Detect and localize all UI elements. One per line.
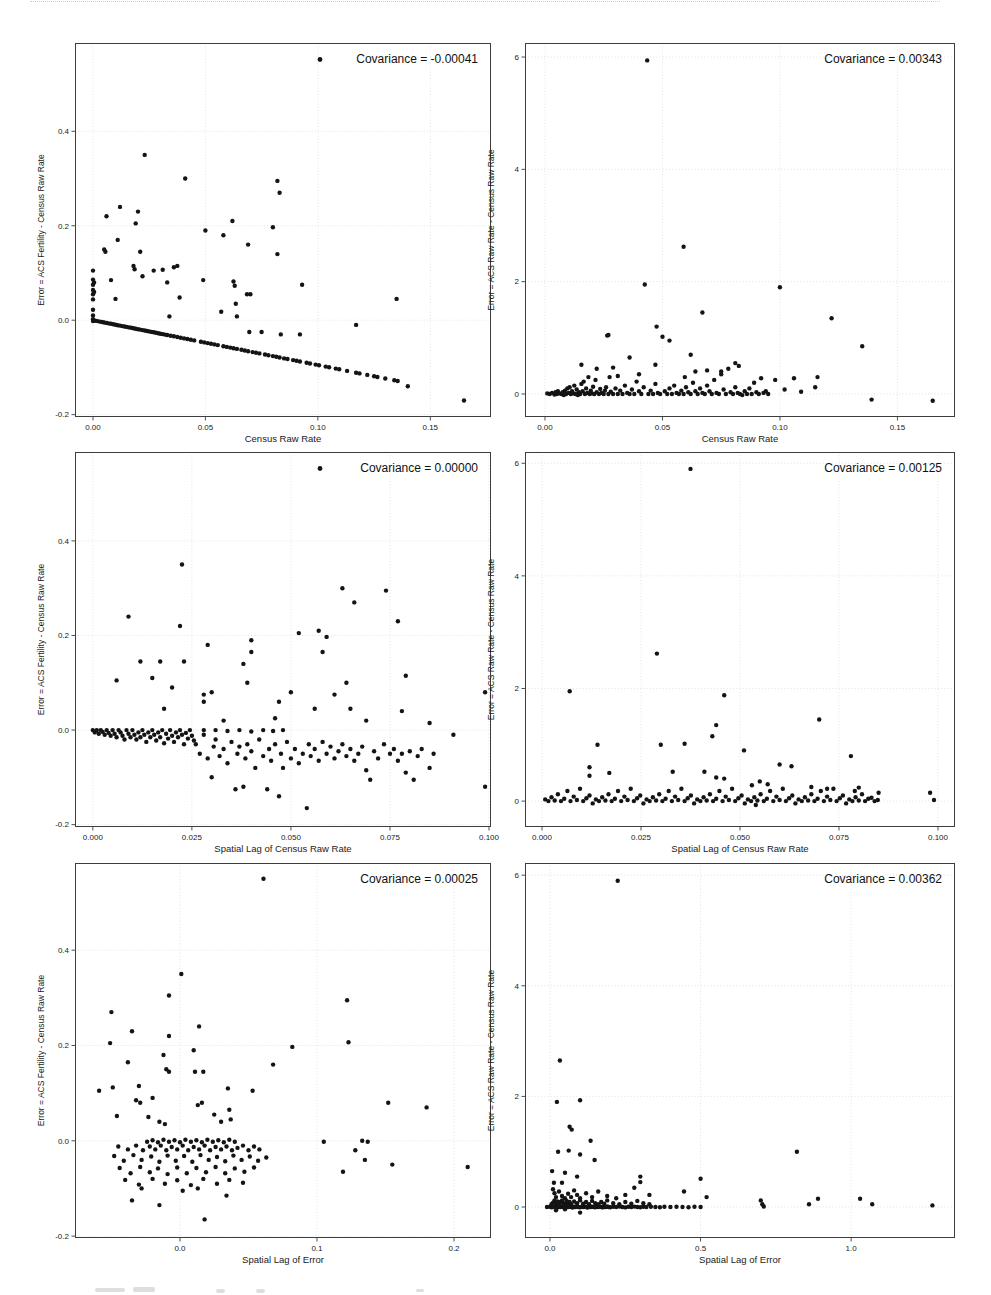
x-axis-ticks: 0.00.51.0 — [544, 1238, 857, 1253]
caption-remnant — [133, 1287, 155, 1292]
gridlines — [525, 863, 955, 1238]
x-tick-label: 0.10 — [772, 423, 788, 432]
y-tick-label: 4 — [515, 982, 520, 991]
y-tick-label: 0.4 — [58, 127, 70, 136]
y-axis-title: Error = ACS Raw Rate - Census Raw Rate — [486, 970, 496, 1132]
y-axis-title: Error = ACS Raw Rate - Census Raw Rate — [486, 149, 496, 311]
y-tick-label: 6 — [515, 459, 520, 468]
caption-remnant — [216, 1289, 225, 1293]
gridlines — [525, 452, 955, 827]
x-tick-label: 0.075 — [380, 833, 401, 842]
y-tick-label: 0.2 — [58, 222, 70, 231]
scatter-panel-6: 0.00.51.00246Spatial Lag of ErrorError =… — [525, 863, 955, 1238]
covariance-label: Covariance = 0.00025 — [360, 872, 478, 886]
covariance-label: Covariance = 0.00362 — [824, 872, 942, 886]
caption-remnant — [416, 1289, 424, 1292]
x-tick-label: 0.050 — [281, 833, 302, 842]
data-points — [543, 467, 936, 807]
plot-svg: 0.00.51.00246Spatial Lag of ErrorError =… — [525, 863, 955, 1238]
y-axis-title: Error = ACS Fertility - Census Raw Rate — [36, 975, 46, 1127]
scatter-panel-5: 0.00.10.2-0.20.00.20.4Spatial Lag of Err… — [75, 863, 491, 1238]
x-tick-label: 0.05 — [655, 423, 671, 432]
y-tick-label: -0.2 — [55, 820, 69, 829]
legend: Covariance = -0.00041 — [318, 52, 479, 66]
plot-frame — [526, 44, 955, 417]
scatter-panel-1: 0.000.050.100.15-0.20.00.20.4Census Raw … — [75, 43, 491, 417]
scan-artifact-line — [30, 1, 940, 2]
x-axis-ticks: 0.0000.0250.0500.0750.100 — [532, 827, 949, 842]
x-axis-title: Spatial Lag of Census Raw Rate — [214, 843, 351, 854]
plot-svg: 0.00.10.2-0.20.00.20.4Spatial Lag of Err… — [75, 863, 491, 1238]
gridlines — [75, 452, 491, 827]
legend-dot — [318, 57, 323, 62]
scatter-panel-2: 0.000.050.100.150246Census Raw RateError… — [525, 43, 955, 417]
x-axis-title: Spatial Lag of Error — [242, 1254, 324, 1265]
y-tick-label: 6 — [515, 53, 520, 62]
x-tick-label: 0.100 — [479, 833, 500, 842]
caption-remnant — [256, 1289, 265, 1293]
x-tick-label: 0.10 — [310, 423, 326, 432]
x-tick-label: 0.00 — [537, 423, 553, 432]
x-tick-label: 0.075 — [829, 833, 850, 842]
caption-remnant — [95, 1288, 125, 1292]
x-tick-label: 0.100 — [928, 833, 949, 842]
y-tick-label: 0.0 — [58, 1137, 70, 1146]
covariance-label: Covariance = 0.00000 — [360, 461, 478, 475]
plot-svg: 0.000.050.100.150246Census Raw RateError… — [525, 43, 955, 417]
x-tick-label: 0.025 — [182, 833, 203, 842]
y-tick-label: 0.2 — [58, 631, 70, 640]
legend: Covariance = 0.00125 — [824, 461, 942, 475]
gridlines — [525, 43, 955, 417]
data-points — [91, 562, 488, 810]
y-tick-label: -0.2 — [55, 1232, 69, 1241]
y-axis-title: Error = ACS Fertility - Census Raw Rate — [36, 564, 46, 716]
legend: Covariance = 0.00362 — [824, 872, 942, 886]
x-tick-label: 0.050 — [730, 833, 751, 842]
x-tick-label: 0.15 — [422, 423, 438, 432]
y-tick-label: 4 — [515, 165, 520, 174]
y-axis-ticks: 0246 — [515, 871, 525, 1212]
x-tick-label: 0.1 — [311, 1244, 323, 1253]
x-axis-ticks: 0.000.050.100.15 — [537, 417, 906, 432]
y-tick-label: -0.2 — [55, 410, 69, 419]
x-tick-label: 0.0 — [544, 1244, 556, 1253]
covariance-label: Covariance = 0.00343 — [824, 52, 942, 66]
x-axis-ticks: 0.00.10.2 — [174, 1238, 460, 1253]
y-tick-label: 2 — [515, 684, 520, 693]
x-tick-label: 0.2 — [448, 1244, 460, 1253]
plot-frame — [76, 864, 491, 1238]
y-tick-label: 0 — [515, 1203, 520, 1212]
x-axis-title: Census Raw Rate — [245, 433, 322, 444]
data-points — [91, 153, 466, 403]
legend-dot — [318, 466, 323, 471]
scatter-panel-3: 0.0000.0250.0500.0750.100-0.20.00.20.4Sp… — [75, 452, 491, 827]
plot-svg: 0.000.050.100.15-0.20.00.20.4Census Raw … — [75, 43, 491, 417]
legend: Covariance = 0.00000 — [318, 461, 479, 475]
y-tick-label: 0.4 — [58, 537, 70, 546]
y-tick-label: 2 — [515, 1092, 520, 1101]
x-tick-label: 0.000 — [83, 833, 104, 842]
y-axis-ticks: -0.20.00.20.4 — [55, 127, 75, 419]
scatter-plot-figure: 0.000.050.100.15-0.20.00.20.4Census Raw … — [0, 0, 991, 1295]
gridlines — [75, 863, 491, 1238]
x-tick-label: 0.00 — [85, 423, 101, 432]
covariance-label: Covariance = 0.00125 — [824, 461, 942, 475]
x-axis-title: Census Raw Rate — [702, 433, 779, 444]
data-points — [97, 877, 470, 1222]
data-points — [545, 58, 935, 403]
y-axis-ticks: -0.20.00.20.4 — [55, 946, 75, 1241]
x-tick-label: 0.05 — [198, 423, 214, 432]
plot-svg: 0.0000.0250.0500.0750.100-0.20.00.20.4Sp… — [75, 452, 491, 827]
x-axis-title: Spatial Lag of Error — [699, 1254, 781, 1265]
x-tick-label: 0.025 — [631, 833, 652, 842]
y-tick-label: 0 — [515, 797, 520, 806]
y-axis-title: Error = ACS Fertility - Census Raw Rate — [36, 154, 46, 306]
y-axis-ticks: -0.20.00.20.4 — [55, 537, 75, 830]
x-tick-label: 1.0 — [846, 1244, 858, 1253]
y-axis-title: Error = ACS Raw Rate - Census Raw Rate — [486, 559, 496, 721]
y-tick-label: 0 — [515, 390, 520, 399]
plot-frame — [526, 864, 955, 1238]
x-tick-label: 0.5 — [695, 1244, 707, 1253]
plot-frame — [76, 453, 491, 827]
x-axis-ticks: 0.000.050.100.15 — [85, 417, 438, 432]
